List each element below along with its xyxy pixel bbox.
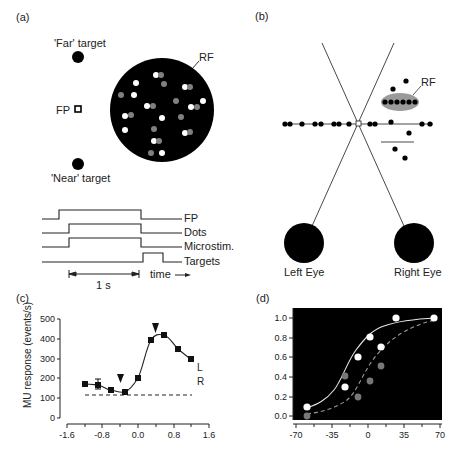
panel-d-label: (d) xyxy=(256,292,269,304)
arrowhead-marker-icon xyxy=(152,323,159,333)
rf-dot-field xyxy=(110,58,214,162)
panel-c: (c) MU response (events/s) 500 400 300 xyxy=(16,292,215,440)
time-arrow-icon xyxy=(175,273,191,277)
svg-text:-35: -35 xyxy=(325,430,338,440)
svg-text:100: 100 xyxy=(40,393,55,403)
d-x-tick-labels: -70 -35 0 35 70 xyxy=(289,430,445,440)
svg-text:400: 400 xyxy=(40,334,55,344)
rf-leader-line xyxy=(192,61,199,69)
right-eye-label: Right Eye xyxy=(394,266,442,278)
rf-label: RF xyxy=(199,51,214,63)
panel-b-label: (b) xyxy=(255,10,268,22)
c-data-points xyxy=(82,332,194,395)
svg-text:300: 300 xyxy=(40,354,55,364)
arrowhead-marker-icon xyxy=(117,374,124,383)
svg-text:1.0: 1.0 xyxy=(274,313,287,323)
svg-text:0.0: 0.0 xyxy=(132,430,145,440)
timing-label-fp: FP xyxy=(184,212,198,224)
left-eye-label: Left Eye xyxy=(284,266,324,278)
left-eye-icon xyxy=(284,223,324,263)
timing-label-targets: Targets xyxy=(184,255,221,267)
right-eye-icon xyxy=(394,223,434,263)
d-y-tick-labels: 1.0 0.8 0.6 0.4 0.2 0.0 xyxy=(274,313,287,421)
rf-label-b: RF xyxy=(421,76,436,88)
svg-text:0: 0 xyxy=(50,413,55,423)
svg-text:0.4: 0.4 xyxy=(274,372,287,382)
panel-b: (b) RF xyxy=(255,10,442,278)
svg-text:-0.8: -0.8 xyxy=(94,430,110,440)
timing-trace-dots xyxy=(42,224,182,233)
rf-leader-line-b xyxy=(413,86,421,95)
svg-text:35: 35 xyxy=(399,430,409,440)
svg-text:-70: -70 xyxy=(289,430,302,440)
c-y-axis-label: MU response (events/s) xyxy=(22,302,33,408)
c-legend-l: L xyxy=(197,362,203,373)
timing-label-microstim: Microstim. xyxy=(184,240,234,252)
timing-trace-fp xyxy=(42,210,182,219)
near-target-dot xyxy=(72,158,84,170)
fixation-point-icon-b xyxy=(356,121,361,126)
timing-diagram xyxy=(42,210,182,262)
svg-text:0: 0 xyxy=(365,430,370,440)
far-target-dot xyxy=(72,51,84,63)
c-x-tick-labels: -1.6 -0.8 0.0 0.8 1.6 xyxy=(59,430,215,440)
far-target-label: 'Far' target xyxy=(54,37,106,49)
svg-text:0.8: 0.8 xyxy=(274,333,287,343)
time-axis-label: time xyxy=(150,268,171,280)
svg-text:-1.6: -1.6 xyxy=(59,430,75,440)
svg-text:1.6: 1.6 xyxy=(203,430,216,440)
svg-text:0.2: 0.2 xyxy=(274,392,287,402)
c-y-tick-labels: 500 400 300 200 100 0 xyxy=(40,314,55,423)
svg-text:0.6: 0.6 xyxy=(274,352,287,362)
panel-a: (a) 'Far' target FP 'Near' target xyxy=(16,11,234,291)
fp-label: FP xyxy=(56,104,70,116)
svg-text:0.8: 0.8 xyxy=(168,430,181,440)
stimulus-dots xyxy=(282,78,432,160)
scale-bar-label: 1 s xyxy=(96,279,111,291)
panel-a-label: (a) xyxy=(16,11,29,23)
timing-trace-targets xyxy=(42,253,182,262)
svg-text:500: 500 xyxy=(40,314,55,324)
svg-text:70: 70 xyxy=(435,430,445,440)
fixation-point-icon xyxy=(75,106,81,112)
lines-of-sight xyxy=(312,43,404,226)
c-axes xyxy=(57,319,209,428)
svg-text:200: 200 xyxy=(40,373,55,383)
timing-label-dots: Dots xyxy=(184,226,207,238)
panel-d: (d) 1.0 0.8 0.6 0.4 0.2 0 xyxy=(256,292,445,440)
timing-trace-microstim xyxy=(42,238,182,247)
near-target-label: 'Near' target xyxy=(51,172,110,184)
figure: (a) 'Far' target FP 'Near' target xyxy=(0,0,457,450)
scale-bar xyxy=(69,270,139,278)
c-legend-r: R xyxy=(197,376,204,387)
svg-text:0.0: 0.0 xyxy=(274,411,287,421)
